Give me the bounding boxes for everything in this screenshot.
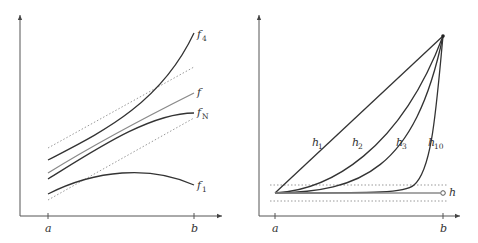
svg-text:4: 4 [202,34,207,43]
left-panel: a b f 4 f f N f 1 [20,15,222,235]
label-fN: f N [196,106,209,121]
label-h2: h 2 [352,136,363,151]
figure: a b f 4 f f N f 1 a b [0,0,478,243]
label-f: f [196,86,203,99]
curve-f1 [48,173,194,194]
svg-text:N: N [202,112,209,121]
right-tick-label-b: b [440,222,447,235]
curve-f4 [48,33,194,160]
label-f1: f 1 [196,179,207,194]
left-tick-label-a: a [45,222,52,235]
open-endpoint-marker [441,191,446,196]
left-tick-label-b: b [191,222,198,235]
closed-endpoint-marker [441,34,445,38]
svg-text:3: 3 [402,142,407,151]
svg-text:f: f [196,86,203,99]
svg-text:1: 1 [202,185,207,194]
curve-f [48,93,194,173]
svg-text:h: h [449,186,456,199]
label-h1: h 1 [312,136,323,151]
label-h: h [449,186,456,199]
label-f4: f 4 [196,28,207,43]
curve-fN [48,113,194,179]
svg-text:2: 2 [358,142,363,151]
right-panel: a b h 1 h 2 h 3 h 10 h [259,15,460,235]
label-h10: h 10 [428,136,444,151]
right-tick-label-a: a [272,222,279,235]
label-h3: h 3 [396,136,407,151]
svg-text:1: 1 [318,142,323,151]
svg-text:10: 10 [434,142,444,151]
